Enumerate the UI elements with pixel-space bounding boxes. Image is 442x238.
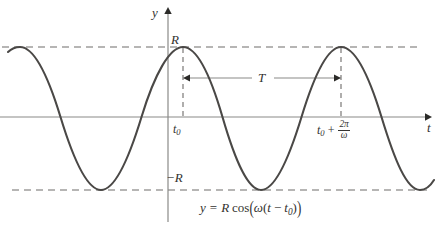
t-zero-subscript: 0: [176, 127, 180, 137]
y-axis-label: y: [152, 6, 158, 19]
equation-equals: =: [210, 200, 217, 215]
cosine-curve: [8, 47, 434, 190]
t-shift-operator: +: [328, 123, 335, 137]
t-shift-numerator: 2π: [338, 120, 349, 131]
equation-omega: ω: [254, 200, 263, 215]
equation-close-outer-paren: ): [297, 198, 301, 218]
t-shift-fraction: 2πω: [338, 120, 349, 140]
period-label: T: [258, 71, 265, 84]
cosine-waveform-figure: y t R −R T t0 t0+2πω y=Rcos(ω(t−t0)): [0, 0, 442, 238]
t-zero-label: t0: [173, 123, 181, 137]
equation-minus: −: [274, 200, 281, 215]
equation-open-outer-paren: (: [249, 198, 253, 218]
equation-variable-t: t: [267, 200, 271, 215]
t-axis-label: t: [427, 121, 431, 134]
t-shift-subscript: 0: [320, 128, 324, 138]
y-axis-arrowhead: [164, 7, 171, 14]
t-shift-denominator: ω: [338, 131, 349, 141]
period-arrow-head-right: [334, 75, 341, 82]
equation-lhs: y: [200, 200, 206, 215]
equation-amplitude: R: [221, 200, 229, 215]
amplitude-negative-label: −R: [166, 171, 183, 184]
equation-caption: y=Rcos(ω(t−t0)): [200, 201, 301, 217]
period-arrow-head-left: [183, 75, 190, 82]
equation-function: cos: [232, 200, 249, 215]
t-shift-label: t0+2πω: [317, 120, 351, 140]
amplitude-positive-label: R: [171, 33, 179, 46]
